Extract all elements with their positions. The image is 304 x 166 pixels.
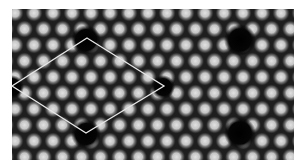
bright-spot <box>149 20 167 38</box>
bright-spot <box>158 36 176 54</box>
bright-spot <box>130 116 148 134</box>
bright-spot <box>253 68 271 86</box>
bright-spot <box>234 68 252 86</box>
bright-spot <box>44 68 62 86</box>
bright-spot <box>35 84 53 102</box>
dark-hole <box>224 24 256 56</box>
bright-spot <box>54 20 72 38</box>
bright-spot <box>187 84 205 102</box>
bright-spot <box>111 20 129 38</box>
bright-spot <box>120 100 138 118</box>
bright-spot <box>25 100 43 118</box>
bright-spot <box>120 36 138 54</box>
bright-spot <box>149 116 167 134</box>
bright-spot <box>16 52 34 70</box>
bright-spot <box>215 68 233 86</box>
bright-spot <box>244 84 262 102</box>
bright-spot <box>25 132 43 150</box>
bright-spot <box>101 68 119 86</box>
bright-spot <box>139 132 157 150</box>
bright-spot <box>206 116 224 134</box>
bright-spot <box>101 36 119 54</box>
bright-spot <box>120 132 138 150</box>
bright-spot <box>54 116 72 134</box>
bright-spot <box>177 68 195 86</box>
bright-spot <box>82 100 100 118</box>
bright-spot <box>54 52 72 70</box>
bright-spot <box>149 52 167 70</box>
bright-spot <box>168 20 186 38</box>
bright-spot <box>177 100 195 118</box>
bright-spot <box>196 36 214 54</box>
bright-spot <box>44 132 62 150</box>
bright-spot <box>263 84 281 102</box>
bright-spot <box>130 84 148 102</box>
bright-spot <box>215 100 233 118</box>
bright-spot <box>263 116 281 134</box>
dark-hole <box>224 117 256 149</box>
bright-spot <box>263 52 281 70</box>
dark-hole <box>151 75 175 99</box>
bright-spot <box>120 68 138 86</box>
bright-spot <box>111 84 129 102</box>
bright-spot <box>225 84 243 102</box>
bright-spot <box>272 100 290 118</box>
bright-spot <box>263 20 281 38</box>
bright-spot <box>111 52 129 70</box>
bright-spot <box>101 132 119 150</box>
bright-spot <box>187 116 205 134</box>
bright-spot <box>35 116 53 134</box>
bright-spot <box>82 68 100 86</box>
bright-spot <box>196 132 214 150</box>
bright-spot <box>206 84 224 102</box>
bright-spot <box>44 36 62 54</box>
bright-spot <box>130 20 148 38</box>
bright-spot <box>196 68 214 86</box>
bright-spot <box>54 84 72 102</box>
bright-spot <box>187 52 205 70</box>
lattice-image <box>12 9 294 160</box>
lattice-micrograph <box>12 9 294 160</box>
dark-hole <box>71 25 101 55</box>
bright-spot <box>16 116 34 134</box>
bright-spot <box>35 20 53 38</box>
bright-spot <box>158 100 176 118</box>
bright-spot <box>73 84 91 102</box>
bright-spot <box>101 100 119 118</box>
bright-spot <box>177 36 195 54</box>
bright-spot <box>206 20 224 38</box>
bright-spot <box>234 100 252 118</box>
bright-spot <box>92 52 110 70</box>
bright-spot <box>187 20 205 38</box>
bright-spot <box>25 68 43 86</box>
bright-spot <box>139 36 157 54</box>
bright-spot <box>177 132 195 150</box>
bright-spot <box>158 132 176 150</box>
bright-spot <box>272 132 290 150</box>
bright-spot <box>272 68 290 86</box>
bright-spot <box>168 116 186 134</box>
bright-spot <box>139 100 157 118</box>
bright-spot <box>206 52 224 70</box>
dark-hole <box>71 119 101 149</box>
bright-spot <box>25 36 43 54</box>
bright-spot <box>35 52 53 70</box>
bright-spot <box>111 116 129 134</box>
bright-spot <box>63 68 81 86</box>
bright-spot <box>63 100 81 118</box>
bright-spot <box>92 84 110 102</box>
bright-spot <box>130 52 148 70</box>
bright-spot <box>44 100 62 118</box>
bright-spot <box>16 20 34 38</box>
bright-spot <box>196 100 214 118</box>
bright-spot <box>272 36 290 54</box>
bright-spot <box>253 100 271 118</box>
bright-spot <box>168 52 186 70</box>
